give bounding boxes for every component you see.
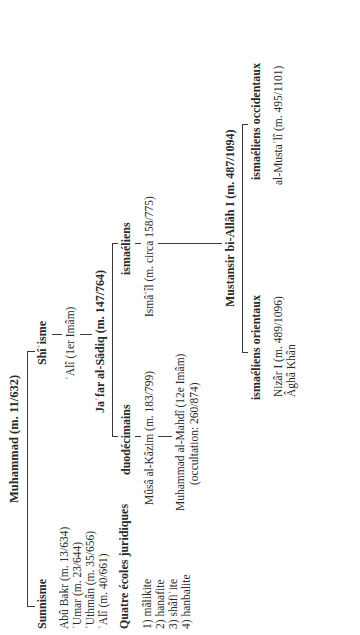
mahdi-line-1: Muhammad al-Mahdî (12e Imâm) — [174, 354, 187, 511]
sunni-connector — [27, 606, 35, 607]
ismail-to-mustansir-line — [158, 243, 222, 244]
isma-to-ismail-line — [135, 243, 141, 244]
ismail: Ismâʿîl (m. circa 158/775) — [143, 196, 156, 317]
musa-to-mahdi-line — [158, 436, 172, 437]
agha-khan: Âghâ Khân — [285, 344, 298, 397]
school-2: 2) hanafite — [154, 580, 167, 630]
mustansir-branch-line — [242, 125, 243, 353]
ismaeliens-title: ismaéliens — [120, 222, 133, 275]
ali-first-imam: ʿAlî (1er Imâm) — [64, 307, 77, 380]
root-branch-line — [27, 352, 28, 607]
occidentaux-title: ismaéliens occidentaux — [250, 63, 263, 180]
root-muhammad: Muhammad (m. 11/632) — [8, 375, 21, 503]
shia-connector — [27, 351, 35, 352]
caliph-3: ʿUthmân (m. 35/656) — [84, 531, 97, 629]
school-3: 3) shâfiʿite — [167, 579, 180, 629]
orientaux-connector — [242, 352, 248, 353]
occidentaux-connector — [242, 124, 248, 125]
caliph-1: Abû Bakr (m. 13/634) — [58, 527, 71, 629]
schools-title: Quatre écoles juridiques — [118, 504, 131, 629]
ismaeliens-connector — [112, 243, 118, 244]
caliph-4: ʿAlî (m. 40/661) — [97, 553, 110, 629]
genealogy-diagram: Muhammad (m. 11/632) Sunnisme Abû Bakr (… — [0, 0, 360, 635]
nizar: Nizâr I (m. 489/1096) — [272, 296, 285, 397]
jafar-al-sadiq: Jaʿfar al-Sâdiq (m. 147/764) — [94, 270, 107, 413]
mahdi-line-2: (occultation: 260/874) — [188, 382, 201, 485]
mustansir: Mustansir bi-Allâh I (m. 487/1094) — [224, 130, 237, 307]
sunnisme-title: Sunnisme — [36, 579, 49, 629]
al-mustali: al-Mustaʿlî (m. 495/1101) — [272, 66, 285, 185]
school-1: 1) mâlikite — [141, 579, 154, 629]
musa-al-kazim: Mûsâ al-Kâzim (m. 183/799) — [143, 371, 156, 505]
caliph-2: ʿUmar (m. 23/644) — [71, 542, 84, 629]
duo-to-musa-line — [135, 436, 141, 437]
ali-to-jafar-line — [80, 334, 92, 335]
duodecimains-title: duodécimains — [120, 404, 133, 475]
school-4: 4) hanbalite — [180, 574, 193, 629]
orientaux-title: ismaéliens orientaux — [250, 295, 263, 400]
shiisme-title: Shîʿisme — [36, 321, 49, 365]
duodecimains-connector — [112, 436, 118, 437]
shia-to-ali-line — [52, 334, 62, 335]
jafar-branch-line — [112, 244, 113, 437]
